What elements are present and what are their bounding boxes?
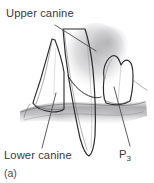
figure-caption: (a) (4, 167, 17, 179)
p3-label-letter: P (119, 148, 127, 160)
lower-canine-label: Lower canine (4, 149, 72, 161)
figure-panel: Upper canine Lower canine P3 (a) (0, 0, 154, 183)
upper-canine-label: Upper canine (6, 7, 74, 19)
p3-label-subscript: 3 (127, 154, 132, 163)
tooth-anatomy-illustration: Upper canine Lower canine P3 (a) (0, 0, 154, 183)
